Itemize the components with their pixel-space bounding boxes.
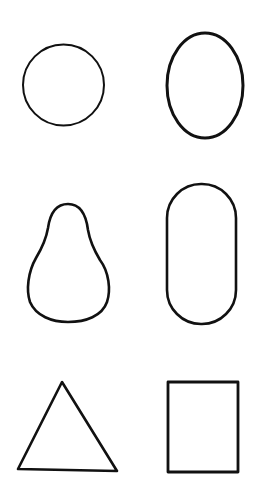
shapes-worksheet <box>0 0 258 498</box>
triangle-shape <box>18 382 117 471</box>
shapes-svg <box>0 0 258 498</box>
stadium-shape <box>167 184 236 324</box>
oval-shape <box>167 33 243 138</box>
pear-shape <box>28 204 109 322</box>
circle-shape <box>23 45 104 126</box>
rectangle-shape <box>168 382 238 472</box>
